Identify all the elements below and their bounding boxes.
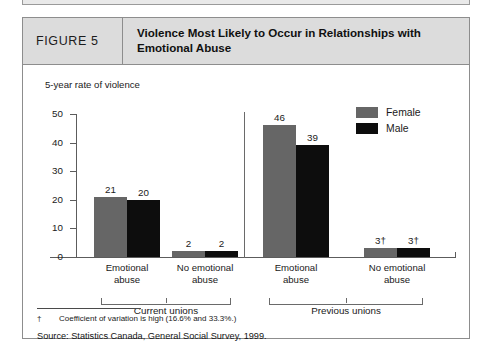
chart-plot-area: 5-year rate of violence 01020304050 2120… <box>23 65 469 340</box>
legend-item: Male <box>356 123 421 134</box>
bars-layer <box>23 65 469 257</box>
group-bracket-tick <box>346 298 347 303</box>
figure-container: FIGURE 5 Violence Most Likely to Occur i… <box>22 17 470 339</box>
y-axis-tick <box>70 257 77 258</box>
legend-label: Male <box>386 123 409 134</box>
bar <box>364 248 397 257</box>
category-label: Emotionalabuse <box>250 262 342 285</box>
bar <box>172 251 205 257</box>
x-axis-line <box>50 257 456 258</box>
bar-value-label: 39 <box>296 132 329 143</box>
bar <box>205 251 238 257</box>
footnote-text: Coefficient of variation is high (16.6% … <box>59 314 236 323</box>
figure-footnotes: † Coefficient of variation is high (16.6… <box>23 326 469 338</box>
bar <box>263 125 296 257</box>
bar-value-label: 2 <box>205 238 238 249</box>
legend-label: Female <box>386 107 421 118</box>
legend-swatch <box>356 123 378 134</box>
figure-title: Violence Most Likely to Occur in Relatio… <box>137 26 457 56</box>
bar-value-label: 20 <box>127 187 160 198</box>
figure-number-label: FIGURE 5 <box>36 34 98 48</box>
category-label-line: abuse <box>351 274 443 286</box>
category-label: No emotionalabuse <box>159 262 251 285</box>
source-line: Source: Statistics Canada, General Socia… <box>37 331 267 341</box>
group-label: Previous unions <box>239 305 453 316</box>
figure-header: FIGURE 5 Violence Most Likely to Occur i… <box>23 18 469 65</box>
bar-value-label: 46 <box>263 112 296 123</box>
bar-value-label: 21 <box>94 184 127 195</box>
footnote-row: † Coefficient of variation is high (16.6… <box>37 314 236 323</box>
bar <box>127 200 160 257</box>
bar <box>94 197 127 257</box>
legend-item: Female <box>356 107 421 118</box>
category-label-line: abuse <box>250 274 342 286</box>
chart-legend: FemaleMale <box>356 107 421 139</box>
footnote-marker: † <box>37 314 59 323</box>
legend-swatch <box>356 107 378 118</box>
preceding-element-sliver <box>22 0 470 5</box>
footnote-rule <box>37 308 141 309</box>
bar-value-label: 2 <box>172 238 205 249</box>
category-label-line: Emotional <box>250 262 342 274</box>
category-label-line: No emotional <box>351 262 443 274</box>
group-bracket-tick <box>166 298 167 303</box>
bar-value-label: 3† <box>397 235 430 246</box>
figure-title-cell: Violence Most Likely to Occur in Relatio… <box>123 18 469 64</box>
category-label-line: No emotional <box>159 262 251 274</box>
figure-number-cell: FIGURE 5 <box>23 18 123 64</box>
bar-value-label: 3† <box>364 235 397 246</box>
category-label-line: abuse <box>159 274 251 286</box>
bar <box>397 248 430 257</box>
category-label: No emotionalabuse <box>351 262 443 285</box>
bar <box>296 145 329 257</box>
